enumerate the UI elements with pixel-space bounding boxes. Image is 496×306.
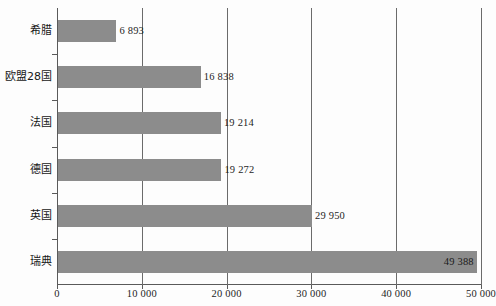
y-axis-tick bbox=[52, 193, 57, 194]
bar bbox=[58, 205, 312, 227]
bar bbox=[58, 251, 477, 273]
plot-area: 6 89316 83819 21419 27229 95049 388 bbox=[57, 8, 481, 285]
x-axis-tick-label: 10 000 bbox=[127, 288, 157, 299]
bar bbox=[58, 112, 221, 134]
y-axis-tick bbox=[52, 100, 57, 101]
category-label: 瑞典 bbox=[0, 251, 52, 273]
x-axis-tick-label: 0 bbox=[54, 288, 59, 299]
category-label: 德国 bbox=[0, 159, 52, 181]
y-axis-tick bbox=[52, 147, 57, 148]
x-axis-tick-label: 30 000 bbox=[296, 288, 326, 299]
y-axis-tick bbox=[52, 239, 57, 240]
bar-value-label: 19 272 bbox=[224, 159, 254, 181]
x-axis-tick-label: 40 000 bbox=[381, 288, 411, 299]
bar-value-label: 29 950 bbox=[315, 205, 345, 227]
bar bbox=[58, 20, 116, 42]
gridline bbox=[481, 8, 482, 285]
bar-value-label: 16 838 bbox=[204, 66, 234, 88]
chart-figure: 希腊欧盟28国法国德国英国瑞典 6 89316 83819 21419 2722… bbox=[0, 0, 496, 306]
gridline bbox=[142, 8, 143, 285]
y-axis-line bbox=[57, 8, 58, 285]
bar-value-label: 19 214 bbox=[224, 112, 254, 134]
bar bbox=[58, 66, 201, 88]
x-axis-line bbox=[57, 284, 481, 285]
gridline bbox=[227, 8, 228, 285]
bar-value-label: 6 893 bbox=[119, 20, 144, 42]
category-label: 法国 bbox=[0, 112, 52, 134]
bar-value-label: 49 388 bbox=[444, 251, 474, 273]
y-axis-tick bbox=[52, 54, 57, 55]
x-axis-tick-label: 20 000 bbox=[212, 288, 242, 299]
category-axis: 希腊欧盟28国法国德国英国瑞典 bbox=[0, 8, 52, 285]
bar bbox=[58, 159, 221, 181]
gridline bbox=[311, 8, 312, 285]
gridline bbox=[396, 8, 397, 285]
category-label: 希腊 bbox=[0, 20, 52, 42]
x-axis-tick-labels: 010 00020 00030 00040 00050 000 bbox=[57, 288, 481, 304]
category-label: 欧盟28国 bbox=[0, 66, 52, 88]
x-axis-tick-label: 50 000 bbox=[466, 288, 496, 299]
category-label: 英国 bbox=[0, 205, 52, 227]
